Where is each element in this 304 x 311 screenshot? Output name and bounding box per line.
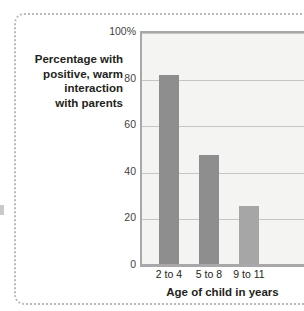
- gridline: [141, 33, 304, 34]
- x-axis-tick-labels: 2 to 45 to 89 to 11: [141, 268, 304, 284]
- x-tick-label: 9 to 11: [233, 268, 264, 280]
- y-tick-label: 100%: [94, 25, 136, 37]
- plot-area: [141, 31, 304, 264]
- bar-9-to-11[interactable]: [239, 206, 259, 264]
- x-tick-label: 2 to 4: [156, 268, 182, 280]
- plot-inner: [141, 33, 304, 264]
- y-tick-label: 60: [94, 118, 136, 130]
- x-tick-label: 5 to 8: [196, 268, 222, 280]
- chart-figure: Percentage with positive, warm interacti…: [0, 0, 304, 311]
- y-tick-label: 80: [94, 72, 136, 84]
- x-axis-title: Age of child in years: [141, 286, 304, 298]
- x-axis-spine: [140, 264, 304, 267]
- y-tick-label: 0: [94, 258, 136, 270]
- bar-5-to-8[interactable]: [199, 155, 219, 265]
- y-tick-label: 20: [94, 211, 136, 223]
- y-axis-tick-labels: 020406080100%: [92, 31, 136, 264]
- y-tick-label: 40: [94, 165, 136, 177]
- bar-2-to-4[interactable]: [159, 75, 179, 264]
- y-axis-spine: [140, 31, 142, 266]
- edge-artifact-mark: [0, 205, 4, 215]
